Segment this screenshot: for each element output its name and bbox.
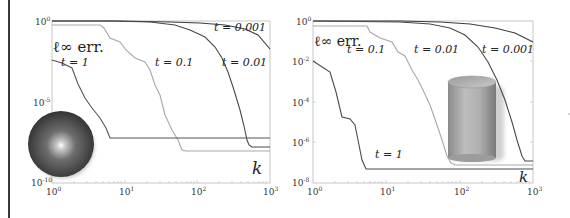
left-xtick-2: 102 [191, 185, 206, 197]
left-xtick-3: 103 [263, 185, 278, 197]
right-ytick-2: 10-4 [292, 96, 309, 108]
charts-svg: 100 10-5 10-10 100 101 102 103 ℓ∞ err. t… [0, 0, 570, 218]
stray-dot [568, 113, 569, 114]
right-ytick-0: 100 [296, 15, 311, 27]
left-ylabel: ℓ∞ err. [53, 38, 104, 56]
right-label-t0001: t = 0.001 [482, 43, 534, 56]
cylinder-icon [448, 76, 504, 162]
right-label-t001: t = 0.01 [414, 43, 459, 56]
right-ytick-1: 10-2 [292, 55, 309, 67]
left-ytick-0: 100 [35, 15, 50, 27]
left-label-t01: t = 0.1 [155, 56, 193, 69]
right-xlabel: k [519, 168, 528, 186]
right-xtick-1: 101 [380, 185, 395, 197]
left-ytick-1: 10-5 [33, 96, 50, 108]
left-label-t001: t = 0.01 [222, 56, 267, 69]
left-label-t1: t = 1 [61, 56, 89, 69]
sphere-icon [28, 111, 94, 177]
right-xtick-0: 100 [307, 185, 322, 197]
right-plot: 100 10-2 10-4 10-6 10-8 100 101 102 103 … [292, 15, 542, 197]
right-label-t01: t = 0.1 [347, 43, 385, 56]
left-label-t0001: t = 0.001 [214, 21, 266, 34]
left-x-minor-ticks [74, 180, 266, 183]
right-x-minor-ticks [335, 180, 529, 183]
right-xtick-2: 102 [454, 185, 469, 197]
right-xtick-3: 103 [527, 185, 542, 197]
left-xtick-0: 100 [46, 185, 61, 197]
right-label-t1: t = 1 [375, 148, 403, 161]
left-xlabel: k [252, 158, 262, 178]
left-plot: 100 10-5 10-10 100 101 102 103 ℓ∞ err. t… [28, 15, 278, 197]
left-xtick-1: 101 [119, 185, 134, 197]
right-ytick-3: 10-6 [292, 136, 309, 148]
